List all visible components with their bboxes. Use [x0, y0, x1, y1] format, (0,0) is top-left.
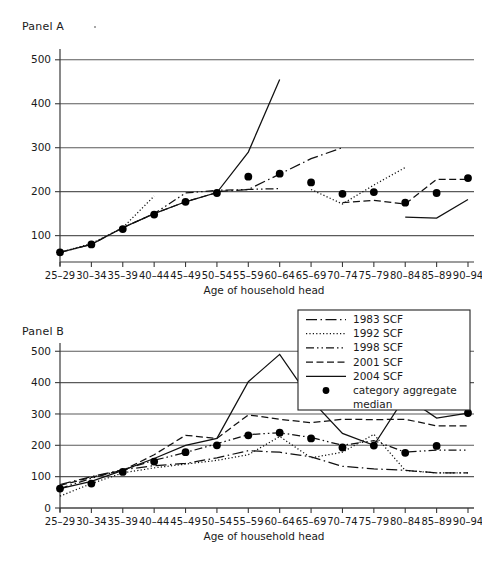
x-axis-label-2: 35–39	[108, 270, 138, 281]
legend-label-4: 2004 SCF	[353, 370, 403, 382]
series-line-1992-scf-0	[60, 196, 154, 252]
data-point-marker	[119, 468, 127, 476]
legend-label-2: 1998 SCF	[353, 341, 403, 353]
panel-b: Panel B 010020030040050025–2930–3435–394…	[0, 300, 482, 580]
y-axis-label-200: 200	[31, 185, 51, 197]
data-point-marker	[244, 431, 252, 439]
series-line-1992-scf-0	[60, 434, 468, 496]
data-point-marker	[56, 248, 64, 256]
x-axis-label-3: 40–44	[139, 270, 169, 281]
data-point-marker	[464, 174, 472, 182]
data-point-marker	[182, 198, 190, 206]
x-axis-label-4: 45–49	[170, 270, 200, 281]
y-axis-label-200: 200	[31, 439, 51, 451]
x-axis-label-5: 50–54	[202, 516, 232, 527]
x-axis-label-9: 70–74	[327, 516, 357, 527]
data-point-marker	[370, 442, 378, 450]
x-axis-label-0: 25–29	[45, 516, 75, 527]
data-point-marker	[244, 173, 252, 181]
data-point-marker	[433, 442, 441, 450]
x-axis-label-7: 60–64	[264, 270, 294, 281]
y-axis-label-300: 300	[31, 141, 51, 153]
x-axis-title: Age of household head	[204, 530, 325, 542]
data-point-marker	[119, 225, 127, 233]
scan-speck	[94, 26, 96, 28]
data-point-marker	[370, 188, 378, 196]
data-point-marker	[276, 429, 284, 437]
x-axis-label-11: 80–84	[390, 516, 420, 527]
x-axis-title: Age of household head	[204, 284, 325, 296]
panel-b-plot: 010020030040050025–2930–3435–3940–4445–4…	[0, 300, 482, 580]
data-point-marker	[87, 241, 95, 249]
y-axis-label-400: 400	[31, 376, 51, 388]
legend: 1983 SCF1992 SCF1998 SCF2001 SCF2004 SCF…	[298, 310, 470, 410]
series-line-1983-scf-0	[217, 148, 343, 192]
x-axis-label-10: 75–79	[359, 516, 389, 527]
x-axis-label-0: 25–29	[45, 270, 75, 281]
y-axis-label-100: 100	[31, 470, 51, 482]
panel-a: Panel A 10020030040050025–2930–3435–3940…	[0, 0, 482, 300]
panel-a-plot: 10020030040050025–2930–3435–3940–4445–49…	[0, 0, 482, 300]
x-axis-label-6: 55–59	[233, 270, 263, 281]
x-axis-label-2: 35–39	[108, 516, 138, 527]
data-point-marker	[87, 480, 95, 488]
series-line-1998-scf-0	[60, 433, 468, 489]
x-axis-label-1: 30–34	[76, 270, 106, 281]
y-axis-label-500: 500	[31, 345, 51, 357]
data-point-marker	[401, 449, 409, 457]
data-point-marker	[276, 170, 284, 178]
legend-label-5-cont: median	[353, 398, 392, 410]
y-axis-label-100: 100	[31, 229, 51, 241]
data-point-marker	[339, 444, 347, 452]
x-axis-label-12: 85–89	[421, 516, 451, 527]
data-point-marker	[182, 448, 190, 456]
data-point-marker	[307, 435, 315, 443]
panel-b-label: Panel B	[22, 325, 64, 338]
legend-label-0: 1983 SCF	[353, 313, 403, 325]
y-axis-label-300: 300	[31, 408, 51, 420]
x-axis-label-13: 90–94	[453, 270, 482, 281]
legend-label-5: category aggregate	[353, 384, 457, 396]
x-axis-label-1: 30–34	[76, 516, 106, 527]
data-point-marker	[401, 199, 409, 207]
data-point-marker	[150, 458, 158, 466]
x-axis-label-8: 65–69	[296, 270, 326, 281]
data-point-marker	[150, 211, 158, 219]
series-line-1992-scf-1	[311, 167, 405, 203]
data-point-marker	[56, 485, 64, 493]
x-axis-label-5: 50–54	[202, 270, 232, 281]
data-point-marker	[433, 189, 441, 197]
series-line-2001-scf-0	[123, 193, 217, 228]
y-axis-label-400: 400	[31, 97, 51, 109]
figure-two-panel-line-charts: Panel A 10020030040050025–2930–3435–3940…	[0, 0, 482, 580]
panel-a-label: Panel A	[22, 20, 64, 33]
data-point-marker	[307, 179, 315, 187]
x-axis-label-10: 75–79	[359, 270, 389, 281]
x-axis-label-9: 70–74	[327, 270, 357, 281]
x-axis-label-6: 55–59	[233, 516, 263, 527]
y-axis-label-500: 500	[31, 53, 51, 65]
data-point-marker	[213, 189, 221, 197]
legend-label-3: 2001 SCF	[353, 356, 403, 368]
series-line-2004-scf-0	[60, 80, 280, 253]
legend-label-1: 1992 SCF	[353, 327, 403, 339]
y-axis-label-0: 0	[44, 502, 51, 514]
x-axis-label-7: 60–64	[264, 516, 294, 527]
x-axis-label-12: 85–89	[421, 270, 451, 281]
x-axis-label-3: 40–44	[139, 516, 169, 527]
data-point-marker	[339, 190, 347, 198]
series-line-2004-scf-1	[405, 200, 468, 218]
x-axis-label-11: 80–84	[390, 270, 420, 281]
x-axis-label-4: 45–49	[170, 516, 200, 527]
x-axis-label-13: 90–94	[453, 516, 482, 527]
x-axis-label-8: 65–69	[296, 516, 326, 527]
legend-marker-icon	[323, 387, 330, 394]
data-point-marker	[213, 441, 221, 449]
